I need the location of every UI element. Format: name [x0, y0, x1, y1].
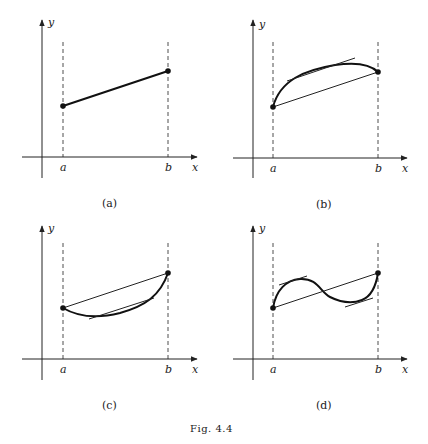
caption-b: (b) — [316, 198, 332, 211]
figure-4-4: y x a b (a) y x a b (b) y x a b (c — [0, 0, 428, 444]
graph-curve — [273, 64, 378, 107]
tick-a: a — [60, 363, 67, 376]
tick-b: b — [165, 363, 172, 376]
x-label: x — [402, 363, 409, 376]
y-label: y — [258, 222, 266, 235]
y-label: y — [47, 222, 55, 235]
endpoint-b — [375, 69, 381, 75]
x-label: x — [192, 363, 199, 376]
graph-curve — [63, 273, 168, 316]
tangent-line — [89, 298, 154, 319]
tick-b: b — [375, 162, 382, 175]
chord — [273, 273, 378, 308]
tangent-line-max — [279, 276, 307, 285]
tick-b: b — [375, 363, 382, 376]
y-label: y — [258, 18, 266, 31]
endpoint-a — [60, 305, 66, 311]
endpoint-b — [165, 68, 171, 74]
y-label: y — [47, 16, 55, 29]
endpoint-b — [375, 270, 381, 276]
x-label: x — [192, 161, 199, 174]
figure-caption: Fig. 4.4 — [190, 423, 233, 434]
graph-segment — [63, 71, 168, 106]
caption-c: (c) — [102, 399, 117, 412]
endpoint-a — [60, 103, 66, 109]
panel-d: y x a b (d) — [233, 222, 409, 412]
panel-b: y x a b (b) — [233, 18, 409, 211]
x-label: x — [402, 162, 409, 175]
panel-a: y x a b (a) — [22, 16, 199, 210]
tick-b: b — [165, 161, 172, 174]
panel-c: y x a b (c) — [22, 222, 199, 412]
endpoint-b — [165, 270, 171, 276]
chord — [273, 72, 378, 107]
caption-a: (a) — [102, 197, 117, 210]
tick-a: a — [60, 161, 67, 174]
endpoint-a — [270, 104, 276, 110]
caption-d: (d) — [316, 399, 332, 412]
tick-a: a — [270, 363, 277, 376]
chord — [63, 273, 168, 308]
tangent-line — [287, 58, 355, 81]
tick-a: a — [270, 162, 277, 175]
endpoint-a — [270, 305, 276, 311]
